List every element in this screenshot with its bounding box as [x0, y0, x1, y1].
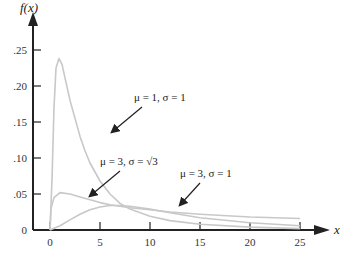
x-tick-label: 20 [245, 236, 257, 248]
y-tick-label: 0 [22, 224, 28, 236]
x-tick-label: 5 [97, 236, 103, 248]
x-tick-label: 25 [295, 236, 307, 248]
annotation-mu1-sigma1: μ = 1, σ = 1 [112, 91, 186, 132]
x-ticks: 0510152025 [47, 222, 306, 248]
x-tick-label: 10 [145, 236, 157, 248]
curves [50, 59, 300, 230]
svg-text:μ = 3, σ = √3: μ = 3, σ = √3 [100, 155, 158, 167]
y-tick-label: .20 [13, 80, 27, 92]
annotation-mu3-sigma1: μ = 3, σ = 1 [180, 167, 232, 205]
curve-series-0 [50, 59, 300, 230]
annotation-mu3-sigma-sqrt3: μ = 3, σ = √3 [90, 155, 158, 196]
y-axis-title: f(x) [20, 0, 38, 15]
svg-text:μ = 3, σ = 1: μ = 3, σ = 1 [180, 167, 232, 179]
y-tick-label: .05 [13, 188, 27, 200]
y-tick-label: .25 [13, 44, 27, 56]
x-axis-arrow-icon [314, 225, 330, 235]
y-ticks: 0.05.10.15.20.25 [13, 44, 41, 236]
x-tick-label: 15 [195, 236, 207, 248]
x-axis-title: x [333, 222, 340, 237]
x-tick-label: 0 [47, 236, 53, 248]
y-tick-label: .10 [13, 152, 27, 164]
y-tick-label: .15 [13, 116, 27, 128]
chart: f(x) x 0.05.10.15.20.25 0510152025 μ = 1… [0, 0, 347, 260]
svg-text:μ = 1, σ = 1: μ = 1, σ = 1 [134, 91, 186, 103]
